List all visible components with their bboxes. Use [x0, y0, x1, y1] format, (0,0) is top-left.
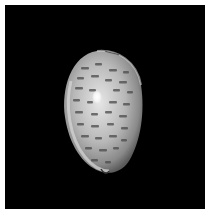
cowrie-shell-image [5, 5, 205, 209]
specular-highlight [92, 90, 102, 104]
photo-frame: Dorsal view of a spotted cowrie shell ph… [5, 5, 205, 209]
